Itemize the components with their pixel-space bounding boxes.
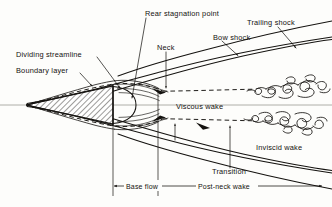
trailing-shock-upper-line — [104, 40, 332, 95]
label-transition: Transition — [212, 167, 246, 176]
label-rear-stagnation-point: Rear stagnation point — [145, 9, 219, 18]
label-viscous-wake: Viscous wake — [176, 102, 223, 111]
transition-wedge — [196, 123, 210, 130]
label-trailing-shock: Trailing shock — [247, 18, 295, 27]
viscous-wake-lower-boundary — [163, 119, 254, 121]
turbulent-wake-upper — [247, 75, 330, 99]
label-neck: Neck — [157, 43, 175, 52]
label-bow-shock: Bow shock — [213, 33, 250, 42]
label-dividing-streamline: Dividing streamline — [16, 50, 82, 59]
diagram-canvas: Rear stagnation point Bow shock Trailing… — [0, 0, 332, 207]
leader-boundary-layer — [80, 73, 92, 86]
label-inviscid-wake: Inviscid wake — [256, 143, 302, 152]
label-boundary-layer: Boundary layer — [16, 66, 69, 75]
label-base-flow: Base flow — [126, 183, 159, 190]
trailing-shock-upper-line-2 — [118, 21, 332, 76]
wake-structure-diagram: Rear stagnation point Bow shock Trailing… — [0, 0, 332, 207]
turbulent-wake-lower — [244, 112, 327, 136]
label-post-neck-wake: Post-neck wake — [198, 183, 250, 190]
viscous-wake-upper-boundary — [163, 89, 254, 91]
leader-rear-stagnation-point — [132, 18, 146, 98]
